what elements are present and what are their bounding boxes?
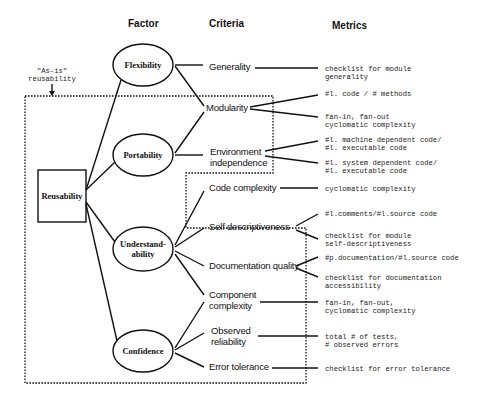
factor-portability: Portability bbox=[113, 150, 173, 160]
metric-component-fan-in-out: fan-in, fan-out, cyclomatic complexity bbox=[325, 299, 416, 315]
metric-tests-and-errors: total # of tests, # observed errors bbox=[325, 333, 398, 349]
metric-error-tolerance-checklist: checklist for error tolerance bbox=[325, 365, 450, 373]
root-reusability: Reusability bbox=[38, 191, 86, 201]
metric-cyclomatic-complexity: cyclomatic complexity bbox=[325, 185, 416, 193]
factor-understandability: Understand- ability bbox=[113, 239, 173, 259]
criterion-component-complexity: Component complexity bbox=[209, 289, 256, 311]
metric-modularity-fan-in-out: fan-in, fan-out cyclomatic complexity bbox=[325, 113, 416, 129]
header-criteria: Criteria bbox=[209, 18, 244, 29]
metric-loc-per-method: #l. code / # methods bbox=[325, 90, 411, 98]
metric-documentation-ratio: #p.documentation/#l.source code bbox=[325, 254, 459, 262]
header-metrics: Metrics bbox=[332, 20, 367, 31]
metric-comments-ratio: #l.comments/#l.source code bbox=[325, 210, 437, 218]
arrow-down-icon bbox=[49, 91, 55, 96]
criterion-generality: Generality bbox=[209, 61, 250, 72]
metric-system-dependent-code: #l. system dependent code/ #l. executabl… bbox=[325, 159, 437, 175]
criterion-modularity: Modularity bbox=[206, 102, 248, 113]
criterion-code-complexity: Code complexity bbox=[209, 182, 276, 193]
criterion-error-tolerance: Error tolerance bbox=[209, 361, 269, 372]
criterion-documentation-quality: Documentation quality bbox=[209, 260, 299, 271]
factor-flexibility: Flexibility bbox=[113, 60, 173, 70]
metric-self-descriptiveness-checklist: checklist for module self-descriptivenes… bbox=[325, 232, 411, 248]
metric-machine-dependent-code: #l. machine dependent code/ #l. executab… bbox=[325, 136, 441, 152]
as-is-reusability-label: "As-is" reusability bbox=[27, 67, 77, 83]
criterion-self-descriptiveness: Self descriptiveness bbox=[209, 221, 289, 232]
factor-confidence: Confidence bbox=[113, 346, 173, 356]
header-factor: Factor bbox=[128, 18, 159, 29]
metric-documentation-accessibility-checklist: checklist for documentation accessibilit… bbox=[325, 274, 441, 290]
metric-generality-checklist: checklist for module generality bbox=[325, 65, 411, 81]
criterion-observed-reliability: Observed reliability bbox=[211, 325, 251, 347]
reusability-quality-model-diagram: Factor Criteria Metrics "As-is" reusabil… bbox=[0, 0, 481, 406]
criterion-environment-independence: Environment independence bbox=[210, 146, 267, 168]
